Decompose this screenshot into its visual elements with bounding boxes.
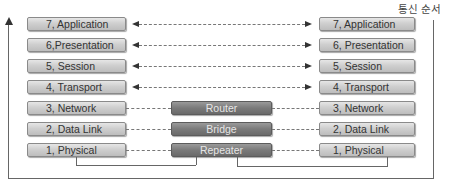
- peer-link-6: [139, 45, 305, 46]
- left-layer-2: 2, Data Link: [27, 122, 126, 136]
- network-link-left: [126, 108, 171, 109]
- network-link-right: [272, 108, 319, 109]
- right-arrow-icon: [305, 84, 312, 90]
- device-label: Repeater: [172, 144, 271, 157]
- layer-label: 6,Presentation: [46, 39, 125, 52]
- right-arrow-icon: [305, 21, 312, 27]
- peer-link-7: [139, 24, 305, 25]
- bridge-box: Bridge: [171, 122, 272, 136]
- right-layer-3: 3, Network: [319, 101, 415, 115]
- up-arrow-icon: [5, 17, 13, 25]
- physical-connector-right-run: [237, 166, 388, 167]
- right-layer-6: 6, Presentation: [319, 38, 415, 52]
- layer-label: 5, Session: [46, 60, 125, 73]
- layer-label: 3, Network: [333, 102, 414, 115]
- bottom-baseline: [8, 178, 434, 179]
- layer-label: 6, Presentation: [333, 39, 414, 52]
- left-layer-4: 4, Transport: [27, 80, 126, 94]
- communication-order-label: 통신 순서: [398, 1, 441, 16]
- physical-connector-right-drop: [237, 157, 238, 166]
- router-box: Router: [171, 101, 272, 115]
- left-layer-3: 3, Network: [27, 101, 126, 115]
- right-layer-1: 1, Physical: [319, 143, 415, 157]
- layer-label: 2, Data Link: [333, 123, 414, 136]
- device-label: Bridge: [172, 123, 271, 136]
- left-arrow-icon: [132, 42, 139, 48]
- layer-label: 4, Transport: [333, 81, 414, 94]
- right-layer-7: 7, Application: [319, 17, 415, 31]
- layer-label: 5, Session: [333, 60, 414, 73]
- peer-link-4: [139, 87, 305, 88]
- physical-link-left: [126, 150, 171, 151]
- peer-link-5: [139, 66, 305, 67]
- left-layer-5: 5, Session: [27, 59, 126, 73]
- up-arrow-shaft: [8, 24, 9, 178]
- layer-label: 1, Physical: [333, 144, 414, 157]
- physical-connector-left-rise: [196, 157, 197, 165]
- left-layer-6: 6,Presentation: [27, 38, 126, 52]
- right-layer-4: 4, Transport: [319, 80, 415, 94]
- layer-label: 7, Application: [46, 18, 125, 31]
- left-arrow-icon: [132, 21, 139, 27]
- physical-link-right: [272, 150, 319, 151]
- physical-connector-right-rise: [387, 157, 388, 166]
- right-layer-2: 2, Data Link: [319, 122, 415, 136]
- right-arrow-icon: [305, 42, 312, 48]
- physical-connector-left-drop: [76, 157, 77, 165]
- layer-label: 2, Data Link: [46, 123, 125, 136]
- left-arrow-icon: [132, 63, 139, 69]
- datalink-link-right: [272, 129, 319, 130]
- physical-connector-left-run: [76, 165, 196, 166]
- left-layer-7: 7, Application: [27, 17, 126, 31]
- right-arrow-icon: [305, 63, 312, 69]
- layer-label: 3, Network: [46, 102, 125, 115]
- device-label: Router: [172, 102, 271, 115]
- left-layer-1: 1, Physical: [27, 143, 126, 157]
- repeater-box: Repeater: [171, 143, 272, 157]
- layer-label: 1, Physical: [46, 144, 125, 157]
- left-arrow-icon: [132, 84, 139, 90]
- layer-label: 4, Transport: [46, 81, 125, 94]
- layer-label: 7, Application: [333, 18, 414, 31]
- datalink-link-left: [126, 129, 171, 130]
- right-layer-5: 5, Session: [319, 59, 415, 73]
- right-vertical-line: [433, 20, 434, 179]
